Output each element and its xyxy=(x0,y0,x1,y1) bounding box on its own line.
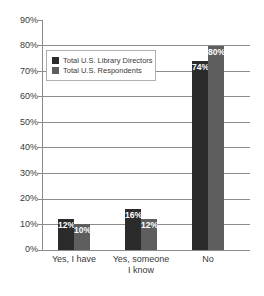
bar-series1[interactable]: 10% xyxy=(74,224,90,250)
x-axis-labels: Yes, I have Yes, someone I know No xyxy=(42,254,250,294)
bar-value-label: 80% xyxy=(208,48,224,57)
y-axis-tick-label: 90% xyxy=(4,16,38,25)
x-axis-category-label: No xyxy=(168,254,248,265)
legend-swatch-icon xyxy=(52,57,59,64)
bar-series0[interactable]: 74% xyxy=(192,61,208,250)
bar-series1[interactable]: 80% xyxy=(208,46,224,250)
legend-swatch-icon xyxy=(52,67,59,74)
bar-value-label: 74% xyxy=(192,63,208,72)
bar-value-label: 16% xyxy=(125,211,141,220)
legend-item[interactable]: Total U.S. Library Directors xyxy=(52,56,151,65)
legend-item-label: Total U.S. Library Directors xyxy=(63,56,153,65)
y-axis-labels: 90% 80% 70% 60% 50% 40% 30% 20% 10% 0% xyxy=(0,0,38,296)
legend-item-label: Total U.S. Respondents xyxy=(63,66,142,75)
y-axis-tick-label: 70% xyxy=(4,67,38,76)
bar-value-label: 10% xyxy=(74,226,90,235)
x-axis-category-line2: I know xyxy=(101,265,181,276)
bar-chart: 90% 80% 70% 60% 50% 40% 30% 20% 10% 0% xyxy=(0,0,264,296)
y-axis-tick-label: 20% xyxy=(4,194,38,203)
legend: Total U.S. Library Directors Total U.S. … xyxy=(46,50,156,81)
bar-value-label: 12% xyxy=(141,221,157,230)
x-axis-category-line1: No xyxy=(168,254,248,265)
y-axis-tick-label: 60% xyxy=(4,92,38,101)
y-axis-tick-label: 80% xyxy=(4,41,38,50)
bar-series0[interactable]: 16% xyxy=(125,209,141,250)
bar-group: 74% 80% xyxy=(192,20,224,250)
bar-value-label: 12% xyxy=(58,221,74,230)
legend-item[interactable]: Total U.S. Respondents xyxy=(52,66,151,75)
y-axis-tick-label: 50% xyxy=(4,118,38,127)
y-axis-tick-label: 0% xyxy=(4,245,38,254)
gridline-baseline xyxy=(42,250,250,251)
y-axis-tick-label: 10% xyxy=(4,220,38,229)
y-axis-tick-label: 40% xyxy=(4,143,38,152)
bar-series0[interactable]: 12% xyxy=(58,219,74,250)
bar-series1[interactable]: 12% xyxy=(141,219,157,250)
y-axis-tick-label: 30% xyxy=(4,169,38,178)
